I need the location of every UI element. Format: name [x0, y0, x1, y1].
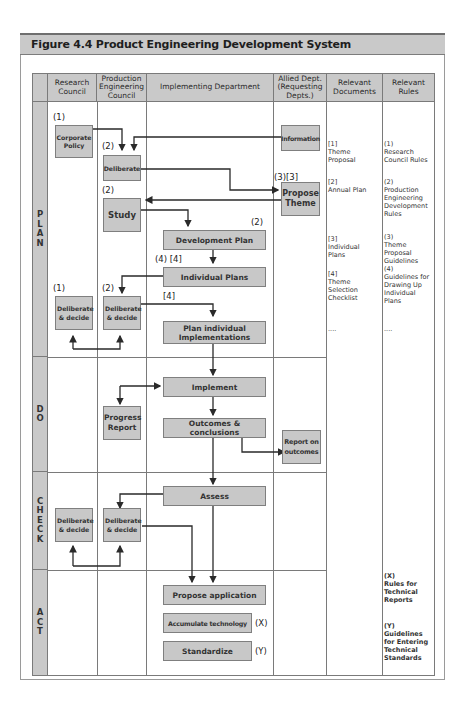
- document-individual-plans: [3] Individual Plans: [328, 235, 360, 259]
- rule-technical-reports: (X) Rules for Technical Reports: [384, 572, 418, 604]
- box-plan-individual-implementations: Plan individual Implementations: [163, 321, 266, 344]
- marker-development-plan: (2): [251, 217, 263, 227]
- document-annual-plan: [2] Annual Plan: [328, 178, 367, 194]
- box-rc-deliberate-decide-plan: Deliberate & decide: [55, 296, 93, 330]
- rule-research-council-rules: (1) Research Council Rules: [384, 140, 428, 164]
- box-propose-theme: Propose Theme: [281, 182, 320, 216]
- rule-theme-proposal-guidelines: (3) Theme Proposal Guidelines (4) Guidel…: [384, 233, 429, 305]
- box-implement: Implement: [163, 377, 266, 397]
- box-study: Study: [103, 198, 141, 232]
- rule-production-engineering-development-rules: (2) Production Engineering Development R…: [384, 178, 428, 218]
- rule-ellipsis: ....: [384, 325, 392, 333]
- box-corporate-policy: Corporate Policy: [55, 125, 93, 158]
- box-individual-plans: Individual Plans: [163, 267, 266, 287]
- document-theme-selection-checklist: [4] Theme Selection Checklist: [328, 270, 358, 302]
- document-ellipsis: ....: [328, 325, 336, 333]
- box-propose-application: Propose application: [163, 585, 266, 605]
- document-theme-proposal: [1] Theme Proposal: [328, 140, 356, 164]
- box-progress-report: Progress Report: [103, 406, 141, 440]
- box-accumulate-technology: Accumulate technology: [163, 613, 252, 633]
- box-development-plan: Development Plan: [163, 230, 266, 250]
- box-deliberate: Deliberate: [103, 155, 141, 181]
- flow-arrows: [0, 0, 468, 718]
- box-pec-deliberate-decide-plan: Deliberate & decide: [103, 296, 141, 330]
- box-report-on-outcomes: Report on outcomes: [282, 430, 321, 464]
- marker-corporate-policy: (1): [53, 112, 65, 122]
- box-assess: Assess: [163, 486, 266, 506]
- marker-study: (2): [102, 185, 114, 195]
- box-information: Information: [281, 125, 320, 151]
- marker-deliberate: (2): [102, 141, 114, 151]
- marker-rc-deliberate-decide-plan: (1): [53, 283, 65, 293]
- marker-plan-implementations: [4]: [163, 291, 175, 301]
- marker-standardize: (Y): [255, 646, 267, 656]
- box-standardize: Standardize: [163, 641, 252, 661]
- rule-technical-standards: (Y) Guidelines for Entering Technical St…: [384, 622, 428, 662]
- marker-pec-deliberate-decide-plan: (2): [102, 283, 114, 293]
- box-outcomes-conclusions: Outcomes & conclusions: [163, 418, 266, 438]
- marker-propose-theme: (3)[3]: [274, 172, 298, 182]
- box-pec-deliberate-decide-check: Deliberate & decide: [103, 508, 141, 542]
- marker-individual-plans: (4) [4]: [155, 254, 182, 264]
- marker-accumulate-technology: (X): [255, 618, 267, 628]
- box-rc-deliberate-decide-check: Deliberate & decide: [55, 508, 93, 542]
